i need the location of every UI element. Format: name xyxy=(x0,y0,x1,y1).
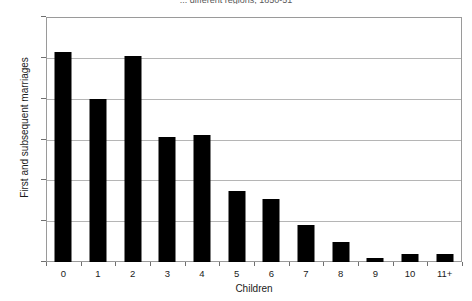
bar-slot xyxy=(427,17,462,262)
bar-slot xyxy=(358,17,393,262)
bar-slot xyxy=(219,17,254,262)
bar-chart-figure: ... different regions, 1850-51 First and… xyxy=(0,0,472,301)
x-tick-mark xyxy=(150,262,151,266)
bar[interactable] xyxy=(89,99,106,262)
x-axis-title: Children xyxy=(46,283,462,294)
bar[interactable] xyxy=(124,56,141,262)
x-tick-mark xyxy=(358,262,359,266)
bar-slot xyxy=(150,17,185,262)
bar-slot xyxy=(46,17,81,262)
bar-slot xyxy=(289,17,324,262)
bar-slot xyxy=(185,17,220,262)
x-tick-mark xyxy=(462,262,463,266)
x-tick-mark xyxy=(185,262,186,266)
x-tick-mark xyxy=(393,262,394,266)
y-tick-mark xyxy=(41,179,46,180)
x-tick-mark xyxy=(323,262,324,266)
bar-slot xyxy=(254,17,289,262)
x-tick-mark xyxy=(46,262,47,266)
x-tick-mark xyxy=(115,262,116,266)
y-tick-mark xyxy=(41,57,46,58)
bar[interactable] xyxy=(401,254,418,262)
x-tick-mark xyxy=(81,262,82,266)
y-tick-mark xyxy=(41,98,46,99)
y-tick-mark xyxy=(41,16,46,17)
bar-slot xyxy=(323,17,358,262)
bar[interactable] xyxy=(228,191,245,262)
x-tick-label: 11+ xyxy=(425,268,465,279)
bar[interactable] xyxy=(159,137,176,262)
bar[interactable] xyxy=(263,199,280,262)
bar[interactable] xyxy=(55,52,72,262)
y-tick-mark xyxy=(41,220,46,221)
bar[interactable] xyxy=(193,135,210,262)
bar-slot xyxy=(115,17,150,262)
x-tick-mark xyxy=(219,262,220,266)
bar[interactable] xyxy=(332,242,349,262)
y-axis-title: First and subsequent marriages xyxy=(19,48,30,208)
bar-slot xyxy=(81,17,116,262)
x-tick-mark xyxy=(254,262,255,266)
y-tick-mark xyxy=(41,139,46,140)
chart-title: ... different regions, 1850-51 xyxy=(0,0,472,4)
bar[interactable] xyxy=(367,258,384,262)
bar[interactable] xyxy=(436,254,453,262)
bar-slot xyxy=(393,17,428,262)
x-tick-mark xyxy=(289,262,290,266)
x-tick-mark xyxy=(427,262,428,266)
bar[interactable] xyxy=(297,225,314,262)
bar-series xyxy=(46,17,462,262)
